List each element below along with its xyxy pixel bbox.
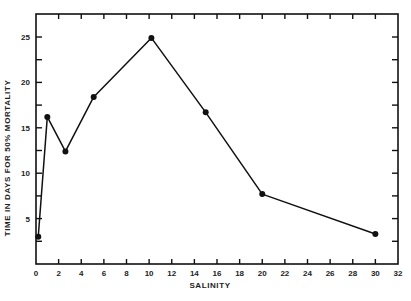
y-axis-label: TIME IN DAYS FOR 50% MORTALITY [3, 80, 12, 237]
x-tick-label: 22 [280, 269, 289, 278]
y-tick-labels: 510152025 [21, 33, 30, 224]
y-tick-label: 20 [21, 78, 30, 87]
x-tick-label: 20 [258, 269, 267, 278]
data-point-marker [372, 231, 378, 237]
data-point-marker [35, 234, 41, 240]
series-line [38, 38, 375, 237]
x-tick-labels: 02468101214161820222426283032 [34, 269, 403, 278]
x-tick-label: 4 [79, 269, 84, 278]
x-tick-label: 26 [326, 269, 335, 278]
x-tick-label: 28 [348, 269, 357, 278]
x-tick-label: 24 [303, 269, 312, 278]
x-axis-label: SALINITY [189, 281, 230, 290]
x-tick-label: 2 [56, 269, 61, 278]
data-series [35, 35, 378, 240]
x-tick-label: 0 [34, 269, 39, 278]
plot-frame [36, 14, 398, 264]
x-tick-label: 18 [235, 269, 244, 278]
x-tick-label: 6 [102, 269, 107, 278]
data-point-marker [148, 35, 154, 41]
x-tick-label: 8 [124, 269, 129, 278]
x-tick-label: 14 [190, 269, 199, 278]
data-point-marker [91, 94, 97, 100]
x-tick-label: 12 [167, 269, 176, 278]
y-tick-label: 15 [21, 124, 30, 133]
y-tick-label: 10 [21, 169, 30, 178]
x-tick-label: 32 [394, 269, 403, 278]
data-point-marker [44, 114, 50, 120]
y-tick-label: 25 [21, 33, 30, 42]
x-tick-label: 10 [145, 269, 154, 278]
x-tick-label: 30 [371, 269, 380, 278]
data-point-marker [259, 191, 265, 197]
data-point-marker [62, 148, 68, 154]
x-tick-label: 16 [213, 269, 222, 278]
y-tick-label: 5 [26, 215, 31, 224]
axis-ticks [36, 14, 398, 264]
data-point-marker [203, 109, 209, 115]
chart: 02468101214161820222426283032 510152025 … [0, 0, 411, 301]
